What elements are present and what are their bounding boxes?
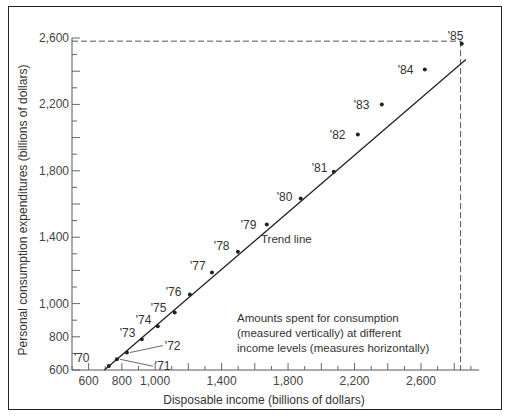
data-point [107,364,111,368]
data-point [156,324,160,328]
data-point-label: '80 [277,190,293,204]
data-point-label: '74 [136,313,152,327]
scatter-chart: 6008001,0001,4001,8002,2002,6006008001,0… [0,0,513,420]
data-point-label: '78 [214,239,230,253]
x-axis-title: Disposable income (billions of dollars) [163,393,364,407]
data-point [115,357,119,361]
y-tick-label: 2,200 [39,97,69,111]
note-line-1: Amounts spent for consumption [237,312,399,324]
data-point-label: '76 [166,285,182,299]
data-point [173,310,177,314]
leader-line [130,346,163,353]
y-axis-title: Personal consumption expenditures (billi… [16,65,30,356]
data-point-label: '84 [398,63,414,77]
data-point [299,197,303,201]
data-point [188,292,192,296]
x-tick-label: 2,200 [340,374,370,388]
data-point-label: '70 [74,351,90,365]
data-point-label: '85 [448,29,464,43]
y-tick-label: 800 [49,330,69,344]
x-tick-label: 1,400 [207,374,237,388]
x-tick-label: 1,800 [273,374,303,388]
data-point-label: '72 [165,339,181,353]
data-point [236,250,240,254]
x-tick-label: 800 [112,374,132,388]
x-tick-label: 600 [79,374,99,388]
x-tick-label: 2,600 [406,374,436,388]
data-point-label: '83 [354,98,370,112]
y-tick-label: 1,800 [39,164,69,178]
data-point-label: '82 [330,128,346,142]
data-point [210,270,214,274]
y-tick-label: 1,400 [39,230,69,244]
data-point [356,133,360,137]
data-point-label: '71 [155,359,171,373]
data-point [265,223,269,227]
data-point [125,351,129,355]
data-point [332,170,336,174]
trend-line-label: Trend line [261,233,312,245]
data-point-label: '73 [120,326,136,340]
data-point-label: '79 [241,218,257,232]
data-point [423,68,427,72]
leader-line [120,359,153,366]
y-tick-label: 2,600 [39,31,69,45]
y-tick-label: 600 [49,363,69,377]
data-point [140,337,144,341]
data-point-label: '81 [312,161,328,175]
data-point-label: '75 [151,301,167,315]
y-tick-label: 1,000 [39,297,69,311]
data-point-label: '77 [190,259,206,273]
data-point [380,103,384,107]
note-line-3: income levels (measures horizontally) [237,342,430,354]
note-line-2: (measured vertically) at different [237,327,402,339]
x-tick-label: 1,000 [140,374,170,388]
